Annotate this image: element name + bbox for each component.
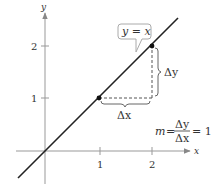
slope-value: = 1 (192, 125, 212, 138)
line-callout: y = x (118, 24, 151, 52)
y-axis-label: y (40, 2, 47, 12)
callout-label: y = x (121, 25, 151, 38)
point-1-1 (97, 96, 102, 101)
slope-denominator: Δx (175, 132, 190, 145)
delta-y-brace (155, 48, 161, 96)
rise-run-guides (99, 46, 152, 98)
delta-x-brace (101, 101, 150, 107)
point-2-2 (150, 44, 155, 49)
y-tick-label-1: 1 (31, 93, 37, 104)
x-tick-label-1: 1 (97, 159, 103, 170)
delta-y-label: Δy (164, 66, 179, 79)
slope-equals: = (166, 125, 175, 138)
slope-formula: m = Δy Δx = 1 (155, 118, 212, 145)
x-tick-label-2: 2 (149, 159, 155, 170)
axes: x y 1 2 1 2 (16, 2, 199, 184)
slope-numerator: Δy (175, 118, 190, 131)
delta-x-label: Δx (117, 109, 132, 122)
slope-figure: x y 1 2 1 2 Δx Δy y = x m = Δy (0, 0, 214, 184)
x-axis-label: x (194, 146, 199, 156)
y-tick-label-2: 2 (31, 41, 37, 52)
slope-m: m (155, 125, 165, 138)
